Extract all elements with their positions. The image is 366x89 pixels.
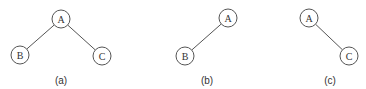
node-label: B xyxy=(182,51,189,62)
edge-a-b xyxy=(27,25,54,49)
node-c: C xyxy=(340,47,358,65)
node-label: A xyxy=(305,13,313,24)
node-a: A xyxy=(219,9,237,27)
caption-c: (c) xyxy=(324,75,336,86)
node-label: B xyxy=(17,50,24,61)
node-b: B xyxy=(176,47,194,65)
tree-diagram: ABC(a)AB(b)AC(c) xyxy=(0,0,366,89)
caption-b: (b) xyxy=(201,75,213,86)
node-a: A xyxy=(52,10,70,28)
node-label: C xyxy=(99,51,106,62)
node-a: A xyxy=(300,9,318,27)
caption-a: (a) xyxy=(55,75,67,86)
tree-b: AB(b) xyxy=(176,9,237,86)
edge-a-c xyxy=(316,24,343,50)
node-c: C xyxy=(93,47,111,65)
edge-a-c xyxy=(68,25,96,50)
tree-c: AC(c) xyxy=(300,9,358,86)
node-label: A xyxy=(57,14,65,25)
edge-a-b xyxy=(192,24,222,50)
node-label: C xyxy=(346,51,353,62)
node-b: B xyxy=(11,46,29,64)
tree-a: ABC(a) xyxy=(11,10,111,86)
node-label: A xyxy=(224,13,232,24)
